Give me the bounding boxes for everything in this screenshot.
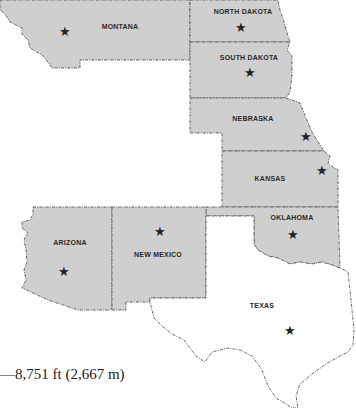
label-arizona: ARIZONA <box>53 239 86 246</box>
label-montana: MONTANA <box>102 23 139 30</box>
state-arizona <box>22 207 112 310</box>
star-icon: ★ <box>300 130 312 143</box>
map-canvas <box>0 0 356 408</box>
star-icon: ★ <box>244 66 256 79</box>
star-icon: ★ <box>235 21 247 34</box>
elevation-annotation: —8,751 ft (2,667 m) <box>0 366 125 383</box>
star-icon: ★ <box>316 164 328 177</box>
star-icon: ★ <box>284 324 296 337</box>
label-oklahoma: OKLAHOMA <box>271 214 314 221</box>
label-nebraska: NEBRASKA <box>232 115 273 122</box>
star-icon: ★ <box>58 265 70 278</box>
star-icon: ★ <box>59 25 71 38</box>
state-south-dakota <box>190 42 292 98</box>
label-south-dakota: SOUTH DAKOTA <box>220 54 278 61</box>
label-north-dakota: NORTH DAKOTA <box>214 8 273 15</box>
state-montana <box>0 0 190 68</box>
star-icon: ★ <box>287 228 299 241</box>
star-icon: ★ <box>154 225 166 238</box>
label-kansas: KANSAS <box>255 175 286 182</box>
label-new-mexico: NEW MEXICO <box>134 251 182 258</box>
label-texas: TEXAS <box>250 302 274 309</box>
state-new-mexico <box>112 207 206 310</box>
